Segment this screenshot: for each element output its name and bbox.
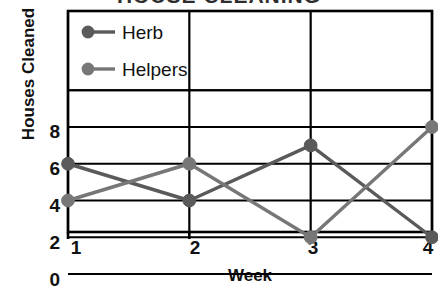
series-herb	[62, 139, 438, 244]
series-helpers	[62, 121, 438, 244]
data-series	[62, 121, 438, 244]
grid-lines	[68, 11, 432, 274]
legend-marker-herb	[82, 26, 95, 39]
legend-label-herb: Herb	[122, 23, 163, 42]
legend-item-herb	[82, 26, 115, 39]
legend-label-helpers: Helpers	[122, 60, 187, 79]
data-point-herb-week4	[426, 231, 438, 244]
data-point-helpers-week1	[62, 194, 75, 207]
legend-marker-helpers	[82, 63, 95, 76]
data-point-helpers-week3	[304, 231, 317, 244]
data-point-helpers-week4	[426, 121, 438, 134]
data-point-herb-week1	[62, 157, 75, 170]
chart-figure: HOUSE CLEANING Houses Cleaned Week 8 6 4…	[0, 0, 438, 302]
data-point-herb-week2	[183, 194, 196, 207]
legend	[82, 26, 115, 76]
plot-frame	[68, 11, 432, 239]
legend-item-helpers	[82, 63, 115, 76]
plot-area	[0, 0, 438, 302]
data-point-helpers-week2	[183, 157, 196, 170]
data-point-herb-week3	[304, 139, 317, 152]
